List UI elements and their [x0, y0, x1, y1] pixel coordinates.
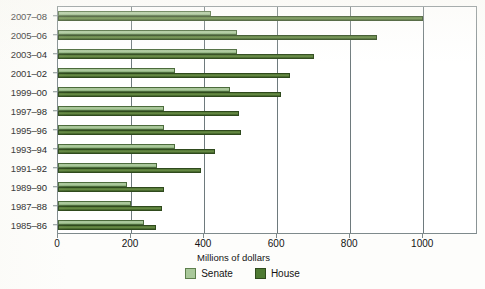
- y-axis-label-2005-06: 2005–06: [11, 29, 47, 40]
- bar-house-1987-88: [58, 206, 162, 211]
- y-axis-label-1987-88: 1987–88: [11, 200, 47, 211]
- y-tick-5: [53, 110, 57, 112]
- y-tick-7: [53, 148, 57, 150]
- y-tick-10: [53, 205, 57, 207]
- bar-house-1989-90: [58, 187, 164, 192]
- y-axis-label-1989-90: 1989–90: [11, 181, 47, 192]
- x-axis-title-text: Millions of dollars: [197, 252, 270, 263]
- bar-house-1997-98: [58, 111, 239, 116]
- y-axis-label-1995-96: 1995–96: [11, 124, 47, 135]
- y-tick-9: [53, 186, 57, 188]
- x-tick-label-200: 200: [122, 238, 139, 249]
- y-tick-8: [53, 167, 57, 169]
- y-tick-6: [53, 129, 57, 131]
- legend-item-senate: Senate: [185, 268, 233, 279]
- legend-item-house: House: [255, 268, 300, 279]
- x-axis-title: Millions of dollars: [0, 252, 485, 263]
- y-tick-1: [53, 34, 57, 36]
- x-tick-label-400: 400: [195, 238, 212, 249]
- y-axis-label-2001-02: 2001–02: [11, 67, 47, 78]
- y-axis-label-2007-08: 2007–08: [11, 10, 47, 21]
- y-axis-label-1985-86: 1985–86: [11, 219, 47, 230]
- bar-chart: 2007–082005–062003–042001–021999–001997–…: [0, 0, 485, 289]
- y-tick-2: [53, 53, 57, 55]
- bar-house-1985-86: [58, 225, 156, 230]
- plot-area: [57, 6, 477, 234]
- bar-house-1995-96: [58, 130, 241, 135]
- bar-house-1991-92: [58, 168, 201, 173]
- y-axis-label-2003-04: 2003–04: [11, 48, 47, 59]
- y-tick-3: [53, 72, 57, 74]
- senate-swatch-icon: [185, 268, 196, 279]
- y-axis-labels: 2007–082005–062003–042001–021999–001997–…: [0, 6, 54, 234]
- bars-layer: [58, 7, 476, 233]
- x-tick-label-600: 600: [268, 238, 285, 249]
- x-axis-labels: 02004006008001000: [0, 238, 485, 252]
- x-tick-label-800: 800: [341, 238, 358, 249]
- chart-legend: Senate House: [0, 268, 485, 279]
- bar-house-2005-06: [58, 35, 377, 40]
- legend-label-senate: Senate: [201, 268, 233, 279]
- x-tick-label-0: 0: [54, 238, 60, 249]
- bar-house-1993-94: [58, 149, 215, 154]
- y-tick-11: [53, 224, 57, 226]
- y-axis-label-1997-98: 1997–98: [11, 105, 47, 116]
- y-tick-4: [53, 91, 57, 93]
- y-axis-label-1999-00: 1999–00: [11, 86, 47, 97]
- y-axis-label-1991-92: 1991–92: [11, 162, 47, 173]
- x-tick-label-1000: 1000: [411, 238, 433, 249]
- bar-house-1999-00: [58, 92, 281, 97]
- y-tick-0: [53, 15, 57, 17]
- house-swatch-icon: [255, 268, 266, 279]
- legend-label-house: House: [271, 268, 300, 279]
- bar-house-2001-02: [58, 73, 290, 78]
- bar-house-2003-04: [58, 54, 314, 59]
- bar-house-2007-08: [58, 16, 423, 21]
- y-axis-label-1993-94: 1993–94: [11, 143, 47, 154]
